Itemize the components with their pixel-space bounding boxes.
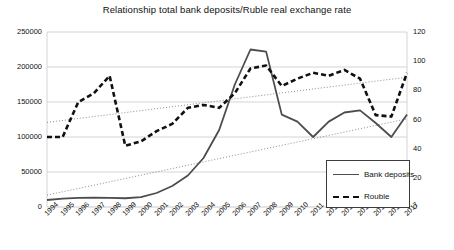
legend-dashed-line-icon <box>333 192 359 201</box>
y-axis-left-tick-label: 100000 <box>0 133 42 141</box>
chart-legend: Bank depositsRouble <box>326 160 410 208</box>
y-axis-right-tick-label: 120 <box>413 28 426 36</box>
y-axis-right-tick-label: 100 <box>413 57 426 65</box>
y-axis-left-tick-label: 50000 <box>0 168 42 176</box>
legend-solid-line-icon <box>333 170 359 179</box>
y-axis-left-tick-label: 250000 <box>0 28 42 36</box>
y-axis-left-tick-label: 150000 <box>0 98 42 106</box>
y-axis-left-tick-label: 200000 <box>0 63 42 71</box>
y-axis-right-tick-label: 60 <box>413 116 421 124</box>
legend-item: Bank deposits <box>333 170 414 179</box>
legend-item-label: Bank deposits <box>364 170 414 179</box>
chart-container: Relationship total bank deposits/Ruble r… <box>0 0 454 250</box>
y-axis-right-tick-label: 40 <box>413 145 421 153</box>
y-axis-left-tick-label: 0 <box>0 203 42 211</box>
legend-item-label: Rouble <box>364 192 389 201</box>
y-axis-right-tick-label: 80 <box>413 86 421 94</box>
legend-item: Rouble <box>333 192 389 201</box>
